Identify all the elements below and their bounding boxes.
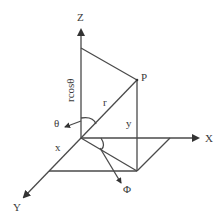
y-label: y <box>126 117 132 129</box>
x-axis-label: X <box>205 132 213 144</box>
phi-arc <box>101 138 104 150</box>
point-p-label: P <box>141 71 147 83</box>
theta-label: θ <box>54 117 59 129</box>
rcos-theta-label: rcosθ <box>64 78 76 102</box>
projection-line <box>81 138 137 171</box>
phi-label: Φ <box>123 183 131 195</box>
radius-line <box>81 80 137 138</box>
theta-arrow <box>65 121 81 127</box>
y-axis <box>24 138 81 197</box>
x-label: x <box>55 141 61 153</box>
y-axis-label: Y <box>13 201 21 213</box>
spherical-coordinates-diagram: Z X Y P rcosθ r θ Φ x y <box>0 0 224 220</box>
phi-arrow <box>100 148 121 183</box>
base-diagonal-line <box>137 138 170 171</box>
point-p-marker <box>136 79 139 82</box>
theta-arc <box>81 118 96 124</box>
z-axis-label: Z <box>77 11 84 23</box>
z-projection-line <box>81 48 137 80</box>
r-label: r <box>103 96 107 108</box>
